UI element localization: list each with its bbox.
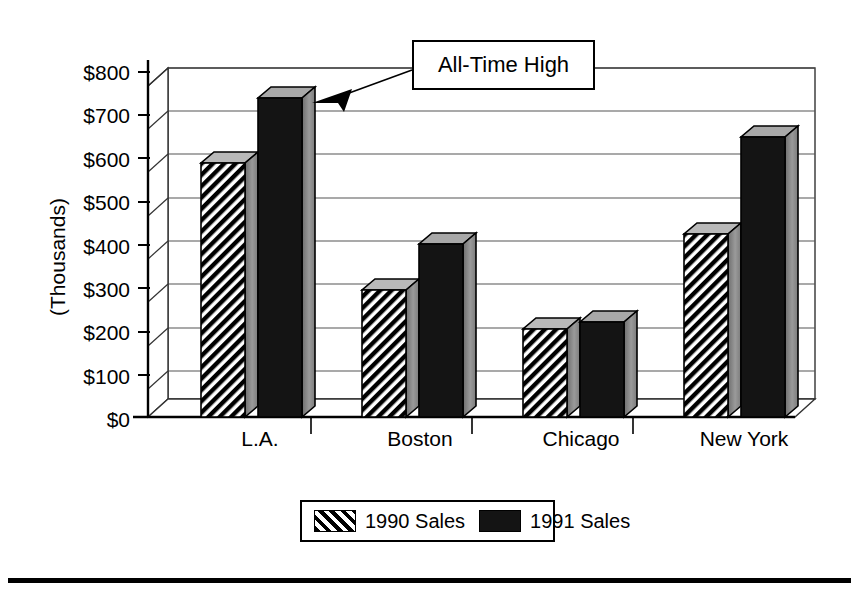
bar-chicago-1990	[523, 318, 580, 417]
bar-newyork-1990	[684, 223, 741, 417]
legend-label-1990: 1990 Sales	[365, 510, 465, 533]
bar-la-1990	[201, 152, 258, 417]
legend-label-1991: 1991 Sales	[530, 510, 630, 533]
bar-la-1991	[258, 87, 315, 417]
annotation-callout-label: All-Time High	[414, 42, 593, 88]
bar-chicago-1991	[580, 311, 637, 417]
bar-chart-figure: (Thousands) $800 $700 $600 $500 $400 $30…	[0, 0, 859, 595]
x-category-label-3: New York	[679, 427, 809, 451]
chart-legend: 1990 Sales 1991 Sales	[300, 500, 555, 542]
legend-entry-1991: 1991 Sales	[479, 510, 630, 533]
bar-boston-1991	[419, 233, 476, 417]
x-category-label-1: Boston	[360, 427, 480, 451]
legend-swatch-solid-icon	[479, 510, 521, 532]
page-bottom-rule	[8, 578, 851, 583]
x-category-label-2: Chicago	[521, 427, 641, 451]
bar-newyork-1991	[741, 126, 798, 417]
plot-left-wall	[148, 68, 168, 417]
bar-boston-1990	[362, 279, 419, 417]
x-category-label-0: L.A.	[200, 427, 320, 451]
legend-entry-1990: 1990 Sales	[314, 510, 465, 533]
annotation-callout-box: All-Time High	[412, 40, 595, 90]
legend-swatch-hatch-icon	[314, 510, 356, 532]
